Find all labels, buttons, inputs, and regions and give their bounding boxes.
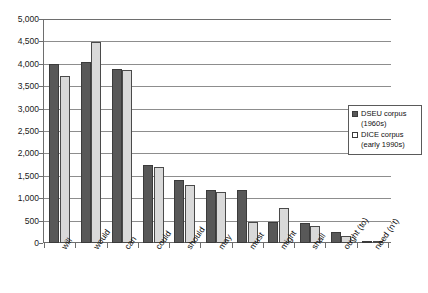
y-tick-label: 1,500 [0,172,39,181]
bar [60,76,70,243]
legend-label-dseu-line2: (1960s) [361,119,406,129]
legend-label-dseu-line1: DSEU corpus [361,109,406,118]
bar [143,165,153,243]
legend-label-dice-line1: DICE corpus [361,130,404,139]
chart-legend: DSEU corpus (1960s) DICE corpus (early 1… [348,105,422,155]
bar-group [263,19,294,243]
bar-group [107,19,138,243]
bar [268,222,278,244]
bar-group [232,19,263,243]
y-tick-label: 1,000 [0,194,39,203]
bar [91,42,101,243]
bar-group [294,19,325,243]
bar [206,190,216,243]
y-tick-label: 500 [0,217,39,226]
bar-chart: 5,0004,5004,0003,5003,0002,5002,0001,500… [0,0,428,293]
bar [300,223,310,243]
bar [174,180,184,243]
bar-group [200,19,231,243]
x-axis-labels: willwouldcancouldshouldmaymustmightshall… [0,246,428,293]
y-tick-label: 2,500 [0,127,39,136]
bar [237,190,247,243]
bar [112,69,122,243]
legend-label-dseu: DSEU corpus (1960s) [361,109,406,129]
bar-group [44,19,75,243]
bar [81,62,91,243]
legend-item-dice: DICE corpus (early 1990s) [352,130,418,150]
y-tick-label: 5,000 [0,15,39,24]
bar-group [138,19,169,243]
bar [122,70,132,243]
legend-label-dice: DICE corpus (early 1990s) [361,130,405,150]
bar [331,232,341,243]
y-tick-label: 3,000 [0,105,39,114]
bars-layer [44,19,391,243]
legend-item-dseu: DSEU corpus (1960s) [352,109,418,129]
y-tick-mark [39,243,43,244]
y-tick-label: 4,500 [0,37,39,46]
y-tick-label: 2,000 [0,149,39,158]
chart-title-remnant [0,0,428,8]
legend-label-dice-line2: (early 1990s) [361,140,405,150]
bar [49,64,59,243]
y-tick-label: 4,000 [0,60,39,69]
legend-swatch-icon-dice [352,132,358,138]
bar-group [75,19,106,243]
legend-swatch-icon-dseu [352,111,358,117]
y-tick-label: 3,500 [0,82,39,91]
bar-group [169,19,200,243]
